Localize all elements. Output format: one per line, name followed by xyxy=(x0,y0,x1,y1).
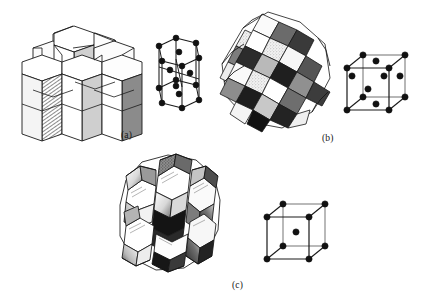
fcc-face-center-atom xyxy=(381,73,387,79)
fcc-corner-atom xyxy=(360,94,366,100)
bcc-corner-atom xyxy=(280,201,286,207)
bcc-corner-atom xyxy=(322,201,328,207)
hcp-bottom-center-atom xyxy=(176,91,182,97)
fcc-face-center-atom xyxy=(349,73,355,79)
panel-label-b: (b) xyxy=(322,133,334,143)
fcc-face-center-atom xyxy=(373,58,379,64)
hex-prism-front-right xyxy=(102,55,142,141)
hcp-top-center-atom xyxy=(176,49,182,55)
fcc-corner-atom xyxy=(344,65,350,71)
fcc-face-center-atom xyxy=(397,73,403,79)
trunc-oct-upper-mid xyxy=(154,154,192,218)
bcc-corner-atom xyxy=(264,256,270,262)
panel-label-a: (a) xyxy=(121,130,132,140)
bcc-corner-atom xyxy=(306,214,312,220)
figure-canvas xyxy=(0,0,422,303)
panel-label-c: (c) xyxy=(232,280,243,290)
bcc-corner-atom xyxy=(306,256,312,262)
fcc-corner-atom xyxy=(386,107,392,113)
fcc-corner-atom xyxy=(360,52,366,58)
bcc-body-center-atom xyxy=(293,229,299,235)
fcc-face-center-atom xyxy=(373,101,379,107)
hex-prism-front-left xyxy=(22,55,62,141)
hcp-interior-atom-3 xyxy=(173,83,179,89)
bcc-corner-atom xyxy=(264,214,270,220)
bcc-corner-atom xyxy=(322,243,328,249)
bcc-corner-atom xyxy=(280,243,286,249)
hex-prism-front-center xyxy=(62,55,102,141)
bcc-truncated-octahedra-cluster xyxy=(120,154,220,272)
hcp-interior-atom-2 xyxy=(187,70,193,76)
fcc-face-center-atom xyxy=(365,86,371,92)
fcc-corner-atom xyxy=(402,94,408,100)
hcp-interior-atom-1 xyxy=(167,67,173,73)
fcc-corner-atom xyxy=(402,52,408,58)
fcc-corner-atom xyxy=(344,107,350,113)
fcc-corner-atom xyxy=(386,65,392,71)
crystal-structure-figure: (a) (b) (c) xyxy=(0,0,422,303)
